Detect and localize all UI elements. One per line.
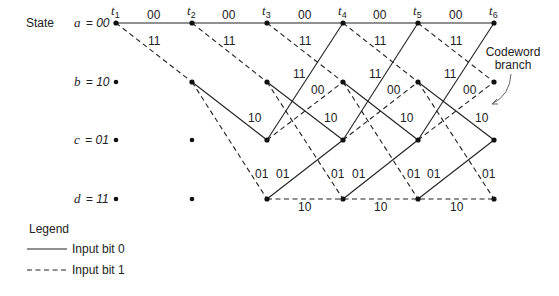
node <box>113 20 118 25</box>
state-label-a: a = 00 <box>74 15 110 30</box>
branch-label-d-c: 01 <box>427 167 441 181</box>
branch-label-a-b: 11 <box>148 34 161 48</box>
node <box>114 80 119 85</box>
time-label-t1: t1 <box>111 3 120 20</box>
branch-labels: 00 00 00 00 00 11 11 11 11 11 11 11 11 0… <box>147 8 496 214</box>
branch-label-c-b: 00 <box>463 83 477 97</box>
time-label-t4: t4 <box>338 3 347 20</box>
branch-label-a-b: 11 <box>299 34 312 48</box>
node <box>114 197 119 202</box>
state-labels: a = 00 b = 10 c = 01 d = 11 <box>74 15 110 206</box>
node <box>415 79 420 84</box>
branch-label-b-c: 10 <box>400 111 414 125</box>
branch-label-d-d: 10 <box>450 200 464 214</box>
time-label-t3: t3 <box>262 3 271 20</box>
branch-label-d-d: 10 <box>374 200 388 214</box>
branch-label-b-d: 01 <box>255 167 269 181</box>
node <box>415 20 420 25</box>
branch-label-b-c: 10 <box>475 111 489 125</box>
branch-label-a-b: 11 <box>223 34 236 48</box>
branch-label-c-a: 11 <box>293 67 306 81</box>
branch-label-a-b: 11 <box>374 34 387 48</box>
node <box>189 79 194 84</box>
annotation-line1: Codeword <box>486 45 541 59</box>
branch-label-a-a: 00 <box>373 8 387 22</box>
legend-item-input-0: Input bit 0 <box>72 242 125 256</box>
edge-b-d <box>418 82 494 199</box>
branch-label-d-c: 01 <box>276 167 290 181</box>
node <box>340 196 345 201</box>
branch-label-d-d: 10 <box>298 200 312 214</box>
node <box>340 20 345 25</box>
annotation-line2: branch <box>495 58 532 72</box>
annotation-arrow <box>492 74 511 104</box>
node <box>491 196 496 201</box>
state-label-c: c = 01 <box>74 132 109 147</box>
branch-label-a-a: 00 <box>147 8 161 22</box>
branch-label-a-b: 11 <box>450 34 463 48</box>
node <box>114 138 119 143</box>
node <box>190 138 195 143</box>
node <box>415 137 420 142</box>
edge-a-b <box>192 23 267 82</box>
trellis-diagram: State a = 00 b = 10 c = 01 d = 11 t1 t2 … <box>0 0 559 296</box>
state-label-d: d = 11 <box>74 191 109 206</box>
node <box>264 20 269 25</box>
branch-label-b-d: 01 <box>331 167 345 181</box>
codeword-branch-annotation: Codeword branch <box>486 45 541 104</box>
node <box>264 79 269 84</box>
node <box>491 20 496 25</box>
time-label-t6: t6 <box>489 3 498 20</box>
branch-label-c-a: 11 <box>444 67 457 81</box>
branch-label-d-c: 01 <box>352 167 366 181</box>
branch-label-b-d: 01 <box>407 167 421 181</box>
node <box>491 79 496 84</box>
legend-item-input-1: Input bit 1 <box>72 263 125 277</box>
edge-b-d <box>343 82 418 199</box>
branch-label-b-d: 01 <box>482 167 496 181</box>
node <box>415 196 420 201</box>
node <box>189 20 194 25</box>
time-label-t2: t2 <box>187 3 196 20</box>
legend-title: Legend <box>29 222 69 236</box>
node <box>491 137 496 142</box>
branch-label-c-b: 00 <box>387 83 401 97</box>
branch-label-b-c: 10 <box>248 111 262 125</box>
branch-label-c-b: 00 <box>311 83 325 97</box>
node <box>340 137 345 142</box>
node <box>190 197 195 202</box>
edge-b-d <box>267 82 343 199</box>
time-label-t5: t5 <box>413 3 422 20</box>
edge-a-b <box>116 23 192 82</box>
legend: Legend Input bit 0 Input bit 1 <box>27 222 125 277</box>
state-heading: State <box>26 16 54 30</box>
state-label-b: b = 10 <box>74 74 110 89</box>
branch-label-a-a: 00 <box>298 8 312 22</box>
branch-label-c-a: 11 <box>369 67 382 81</box>
branch-label-a-a: 00 <box>222 8 236 22</box>
branch-label-a-a: 00 <box>449 8 463 22</box>
node <box>264 137 269 142</box>
branch-label-b-c: 10 <box>324 111 338 125</box>
node <box>264 196 269 201</box>
edge-b-d <box>192 82 267 199</box>
node <box>340 79 345 84</box>
